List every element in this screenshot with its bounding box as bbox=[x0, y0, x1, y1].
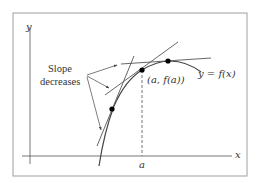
diagram-canvas: y x a Slope decreases (a, f(a)) y = f(x) bbox=[0, 0, 257, 183]
point-left bbox=[109, 106, 114, 111]
point-a-label: (a, f(a)) bbox=[147, 74, 185, 85]
arrow-to-middle-tangent bbox=[87, 76, 109, 88]
annotation-slope: Slope bbox=[48, 63, 72, 74]
tick-label-a: a bbox=[139, 159, 145, 170]
point-right bbox=[165, 58, 170, 63]
arrow-to-left-tangent bbox=[87, 77, 101, 130]
point-a bbox=[139, 67, 144, 72]
x-axis-label: x bbox=[235, 149, 241, 160]
annotation-decreases: decreases bbox=[40, 76, 80, 87]
figure-frame bbox=[13, 13, 247, 176]
curve-label: y = f(x) bbox=[197, 68, 236, 79]
arrow-to-right-tangent bbox=[87, 65, 117, 75]
y-axis-label: y bbox=[25, 21, 32, 32]
